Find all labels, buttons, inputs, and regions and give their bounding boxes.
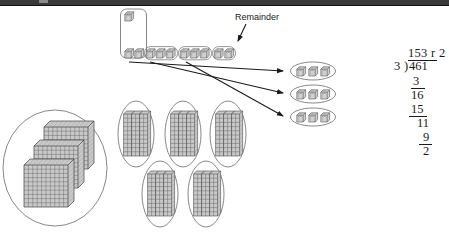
cube-glyph — [297, 90, 306, 99]
cube-glyph — [200, 49, 209, 58]
tens-oval-4 — [142, 161, 178, 227]
cube-glyph — [125, 49, 134, 58]
cube-glyph — [125, 12, 134, 21]
ones-group-2 — [179, 47, 212, 60]
ones-cubes-result-ovals — [291, 62, 336, 126]
cube-glyph — [309, 113, 318, 122]
cube-glyph — [321, 67, 330, 76]
result-oval-3 — [291, 108, 336, 126]
cube-glyph — [180, 49, 189, 58]
rod-glyph — [140, 111, 151, 156]
division-step-1: 3 — [413, 75, 419, 88]
division-divisor: 3 — [394, 60, 400, 73]
division-step-4: 11 — [417, 117, 429, 130]
ones-cubes-row — [125, 47, 236, 60]
cube-glyph — [225, 49, 234, 58]
cube-glyph — [190, 49, 199, 58]
cube-glyph — [321, 90, 330, 99]
cube-glyph — [135, 49, 144, 58]
flat-glyph — [24, 159, 74, 207]
division-step-6: 2 — [423, 145, 429, 158]
hundreds-flats-circle — [3, 110, 107, 226]
cube-glyph — [146, 49, 155, 58]
rod-glyph — [210, 171, 221, 216]
result-oval-2 — [291, 85, 336, 103]
result-oval-1 — [291, 62, 336, 80]
cube-glyph — [156, 49, 165, 58]
division-dividend: 461 — [409, 60, 428, 73]
tens-oval-2 — [165, 101, 201, 167]
tens-rods-ovals — [118, 101, 246, 227]
blocks-diagram — [0, 0, 449, 233]
division-quotient: 153 r 2 — [408, 47, 446, 60]
rod-glyph — [232, 111, 243, 156]
division-step-5: 9 — [423, 131, 429, 144]
tens-oval-5 — [188, 161, 224, 227]
cube-glyph — [321, 113, 330, 122]
division-step-3: 15 — [411, 103, 424, 116]
distribution-arrows — [129, 62, 283, 116]
rod-glyph — [164, 171, 175, 216]
arrow-to-group-1 — [129, 62, 283, 71]
remainder-arrow — [238, 24, 246, 41]
cube-glyph — [309, 67, 318, 76]
rod-glyph — [187, 111, 198, 156]
worksheet-canvas: Remainder — [0, 0, 449, 233]
cube-glyph — [166, 49, 175, 58]
division-bracket: ) — [404, 60, 408, 73]
cube-glyph — [309, 90, 318, 99]
tens-oval-1 — [118, 101, 154, 167]
tens-oval-3 — [210, 101, 246, 167]
division-step-2: 16 — [411, 89, 424, 102]
cube-glyph — [297, 113, 306, 122]
ones-group-3 — [213, 47, 236, 60]
ones-group-1 — [145, 47, 178, 60]
cube-glyph — [297, 67, 306, 76]
cube-glyph — [214, 49, 223, 58]
